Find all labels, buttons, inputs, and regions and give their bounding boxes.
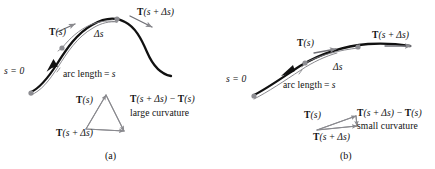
point-s-plus-dot-b (355, 44, 360, 49)
point-s-dot-a (59, 45, 64, 50)
label-curvature-note-a: large curvature (130, 108, 189, 118)
label-s-zero-b: s = 0 (226, 74, 246, 84)
label-tangent-s-plus-a: T(s + Δs) (137, 7, 174, 17)
label-delta-s-b: Δs (333, 62, 343, 72)
start-point-dot-a (28, 90, 33, 95)
label-delta-s-a: Δs (94, 29, 104, 39)
curvature-figure: s = 0 T(s) T(s + Δs) Δs arc length = s T… (0, 0, 435, 169)
label-difference-b: T(s + Δs) − T(s) (357, 108, 422, 118)
arc-length-guide-a (31, 22, 117, 95)
tangent-vector-s-plus-a (130, 16, 152, 27)
label-arc-length-a: arc length = s (63, 69, 116, 79)
point-s-plus-dot-a (114, 16, 119, 21)
panel-caption-b: (b) (340, 150, 352, 161)
label-triangle-tangent-s-plus-a: T(s + Δs) (56, 128, 93, 138)
label-s-zero-a: s = 0 (4, 66, 24, 76)
start-point-dot-b (251, 93, 256, 98)
label-tangent-s-b: T(s) (297, 38, 314, 48)
label-triangle-tangent-s-b: T(s) (304, 110, 321, 120)
label-tangent-s-a: T(s) (49, 27, 66, 37)
label-triangle-tangent-s-a: T(s) (76, 95, 93, 105)
label-difference-a: T(s + Δs) − T(s) (130, 94, 195, 104)
arc-length-guide-b (254, 53, 337, 99)
label-tangent-s-plus-b: T(s + Δs) (372, 30, 409, 40)
label-triangle-tangent-s-plus-b: T(s + Δs) (313, 132, 350, 142)
point-s-dot-b (302, 60, 307, 65)
label-arc-length-b: arc length = s (283, 80, 336, 90)
label-curvature-note-b: small curvature (357, 121, 418, 131)
panel-caption-a: (a) (105, 150, 116, 161)
triangle-edge-difference-a (106, 95, 124, 131)
